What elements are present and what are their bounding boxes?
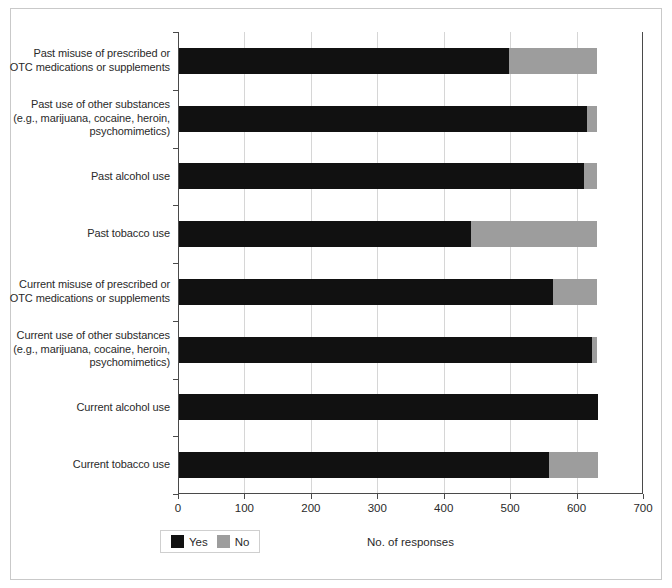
legend-item[interactable]: No xyxy=(217,535,250,548)
gridline xyxy=(244,32,245,494)
bar-row xyxy=(179,452,644,478)
x-axis-tick xyxy=(643,494,644,499)
bar-row xyxy=(179,279,644,305)
category-label-line: Past misuse of prescribed or xyxy=(2,47,170,61)
y-axis-line xyxy=(178,32,179,494)
category-label-line: psychomimetics) xyxy=(2,125,170,139)
bar-segment-yes xyxy=(179,452,549,478)
y-axis-category-label: Past tobacco use xyxy=(2,227,170,241)
category-label-line: Past alcohol use xyxy=(2,170,170,184)
plot-area xyxy=(178,32,643,494)
y-axis-category-label: Current use of other substances(e.g., ma… xyxy=(2,329,170,370)
y-axis-tick xyxy=(173,32,178,33)
gridline xyxy=(311,32,312,494)
gridline xyxy=(377,32,378,494)
bar-row xyxy=(179,394,644,420)
bar-segment-no xyxy=(471,221,597,247)
x-axis-tick-label: 100 xyxy=(224,502,264,514)
bar-row xyxy=(179,106,644,132)
category-label-line: Current use of other substances xyxy=(2,329,170,343)
bar-segment-yes xyxy=(179,337,592,363)
bar-segment-no xyxy=(587,106,598,132)
y-axis-tick xyxy=(173,263,178,264)
x-axis-line xyxy=(178,493,643,494)
chart-legend: YesNo xyxy=(160,530,260,553)
legend-swatch-icon xyxy=(217,535,230,548)
x-axis-tick-label: 500 xyxy=(490,502,530,514)
x-axis-tick xyxy=(244,494,245,499)
x-axis-tick-label: 700 xyxy=(623,502,663,514)
x-axis-tick-label: 200 xyxy=(291,502,331,514)
plot-background xyxy=(178,32,643,494)
y-axis-category-label: Past alcohol use xyxy=(2,170,170,184)
category-label-line: Current alcohol use xyxy=(2,401,170,415)
bar-segment-yes xyxy=(179,48,509,74)
bar-segment-no xyxy=(549,452,598,478)
y-axis-tick xyxy=(173,90,178,91)
legend-swatch-icon xyxy=(171,535,184,548)
bar-segment-yes xyxy=(179,279,553,305)
bar-segment-no xyxy=(592,337,597,363)
bar-segment-yes xyxy=(179,106,587,132)
category-label-line: OTC medications or supplements xyxy=(2,61,170,75)
bar-row xyxy=(179,221,644,247)
x-axis-tick-label: 600 xyxy=(557,502,597,514)
bar-row xyxy=(179,163,644,189)
gridline xyxy=(510,32,511,494)
category-label-line: psychomimetics) xyxy=(2,356,170,370)
category-label-line: Past use of other substances xyxy=(2,98,170,112)
y-axis-category-label: Past misuse of prescribed orOTC medicati… xyxy=(2,47,170,74)
category-label-line: Current tobacco use xyxy=(2,458,170,472)
y-axis-tick xyxy=(173,148,178,149)
legend-item[interactable]: Yes xyxy=(171,535,208,548)
bar-row xyxy=(179,48,644,74)
bar-segment-no xyxy=(509,48,597,74)
gridline xyxy=(577,32,578,494)
y-axis-category-label: Current alcohol use xyxy=(2,401,170,415)
x-axis-tick xyxy=(577,494,578,499)
category-label-line: Current misuse of prescribed or xyxy=(2,278,170,292)
y-axis-category-label: Current misuse of prescribed orOTC medic… xyxy=(2,278,170,305)
x-axis-tick xyxy=(311,494,312,499)
y-axis-category-label: Past use of other substances(e.g., marij… xyxy=(2,98,170,139)
x-axis-tick-label: 300 xyxy=(357,502,397,514)
plot-right-border xyxy=(642,32,643,494)
x-axis-tick-label: 0 xyxy=(158,502,198,514)
bar-segment-yes xyxy=(179,163,584,189)
legend-label: Yes xyxy=(189,536,208,548)
y-axis-tick xyxy=(173,436,178,437)
x-axis-tick-label: 400 xyxy=(424,502,464,514)
bar-row xyxy=(179,337,644,363)
category-label-line: (e.g., marijuana, cocaine, heroin, xyxy=(2,343,170,357)
figure-container: Past misuse of prescribed orOTC medicati… xyxy=(0,0,672,588)
category-label-line: OTC medications or supplements xyxy=(2,292,170,306)
x-axis-tick xyxy=(178,494,179,499)
category-label-line: Past tobacco use xyxy=(2,227,170,241)
bar-segment-yes xyxy=(179,394,598,420)
legend-label: No xyxy=(235,536,250,548)
x-axis-tick xyxy=(444,494,445,499)
y-axis-tick xyxy=(173,321,178,322)
category-label-line: (e.g., marijuana, cocaine, heroin, xyxy=(2,112,170,126)
bar-segment-no xyxy=(553,279,598,305)
bar-segment-no xyxy=(584,163,597,189)
y-axis-tick xyxy=(173,205,178,206)
gridline xyxy=(444,32,445,494)
x-axis-tick xyxy=(377,494,378,499)
y-axis-tick xyxy=(173,379,178,380)
x-axis-tick xyxy=(510,494,511,499)
y-axis-category-label: Current tobacco use xyxy=(2,458,170,472)
bar-segment-yes xyxy=(179,221,471,247)
